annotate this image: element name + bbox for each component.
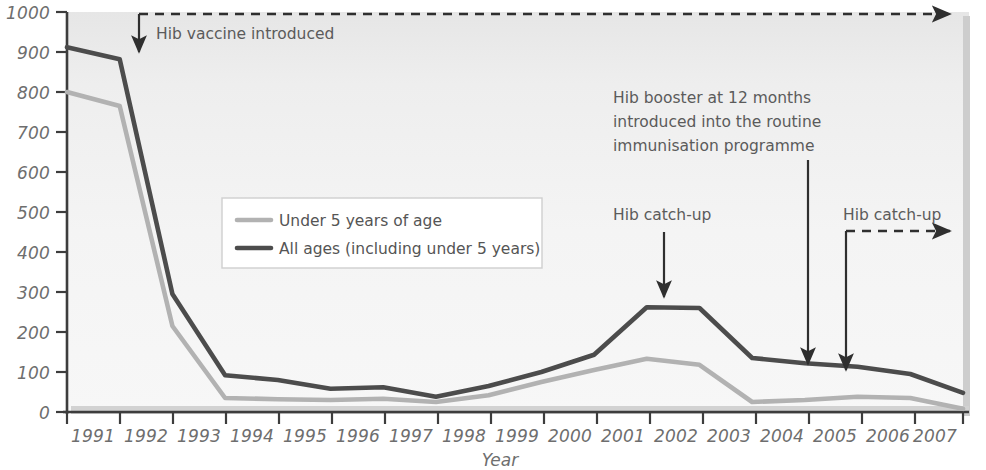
y-tick-label: 700 xyxy=(17,123,50,143)
annotation-label: Hib catch-up xyxy=(843,206,941,224)
x-tick-label: 2005 xyxy=(813,426,857,446)
x-axis-tick-labels: 1991 1992 1993 1994 1995 1996 1997 1998 … xyxy=(71,426,957,446)
y-tick-label: 1000 xyxy=(6,3,50,23)
y-tick-label: 200 xyxy=(17,323,50,343)
annotation-label-line-3: immunisation programme xyxy=(613,137,814,155)
x-tick-label: 2003 xyxy=(707,426,751,446)
x-tick-label: 1997 xyxy=(389,426,433,446)
y-tick-label: 100 xyxy=(17,363,50,383)
x-tick-label: 1992 xyxy=(124,426,168,446)
y-tick-label: 400 xyxy=(17,243,50,263)
y-tick-label: 500 xyxy=(17,203,50,223)
legend-label-under-5-years: Under 5 years of age xyxy=(279,212,442,230)
x-tick-label: 1999 xyxy=(495,426,539,446)
legend: Under 5 years of age All ages (including… xyxy=(222,198,542,268)
x-tick-label: 2000 xyxy=(548,426,592,446)
y-tick-label: 600 xyxy=(17,163,50,183)
x-tick-label: 2007 xyxy=(913,426,957,446)
x-tick-label: 2001 xyxy=(601,426,645,446)
y-tick-label: 800 xyxy=(17,83,50,103)
y-tick-label: 0 xyxy=(39,403,50,423)
x-tick-label: 2002 xyxy=(654,426,698,446)
y-axis-ticks xyxy=(56,12,67,412)
legend-label-all-ages: All ages (including under 5 years) xyxy=(279,240,540,258)
annotation-label: Hib catch-up xyxy=(613,206,711,224)
x-tick-label: 2004 xyxy=(760,426,804,446)
annotation-label-line-2: introduced into the routine xyxy=(613,113,821,131)
x-tick-label: 2006 xyxy=(866,426,910,446)
chart-figure: 1000 900 800 700 600 500 400 300 200 100… xyxy=(0,0,986,470)
line-chart-canvas: 1000 900 800 700 600 500 400 300 200 100… xyxy=(0,0,986,470)
x-tick-label: 1994 xyxy=(230,426,274,446)
y-tick-label: 300 xyxy=(17,283,50,303)
y-tick-label: 900 xyxy=(17,43,50,63)
annotation-label: Hib vaccine introduced xyxy=(156,25,334,43)
x-tick-label: 1996 xyxy=(336,426,380,446)
x-tick-label: 1993 xyxy=(177,426,221,446)
x-tick-label: 1995 xyxy=(283,426,327,446)
x-axis-title: Year xyxy=(482,450,519,470)
x-tick-label: 1991 xyxy=(71,426,115,446)
y-axis-tick-labels: 1000 900 800 700 600 500 400 300 200 100… xyxy=(6,3,50,423)
annotation-label-line-1: Hib booster at 12 months xyxy=(613,89,811,107)
x-tick-label: 1998 xyxy=(442,426,486,446)
